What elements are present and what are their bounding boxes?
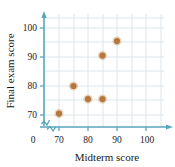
data-point (99, 96, 105, 102)
x-tick-label-90: 90 (112, 135, 122, 145)
y-axis-title: Final exam score (4, 33, 16, 108)
scatter-plot-figure: 0 70 80 90 100 70 80 90 100 Final exam s… (0, 0, 175, 167)
data-point (85, 96, 91, 102)
y-tick-label-80: 80 (28, 81, 38, 91)
origin-tick-label: 0 (31, 135, 36, 145)
x-axis-title: Midterm score (75, 151, 140, 163)
data-point (70, 83, 76, 89)
y-tick-label-90: 90 (28, 52, 38, 62)
x-tick-label-80: 80 (83, 135, 93, 145)
y-tick-label-100: 100 (23, 23, 38, 33)
y-tick-label-70: 70 (28, 110, 38, 120)
scatter-plot-svg: 0 70 80 90 100 70 80 90 100 Final exam s… (0, 0, 175, 167)
data-point (99, 52, 105, 58)
x-tick-label-70: 70 (54, 135, 64, 145)
data-point (56, 110, 62, 116)
data-point (114, 38, 120, 44)
x-tick-label-100: 100 (140, 135, 155, 145)
